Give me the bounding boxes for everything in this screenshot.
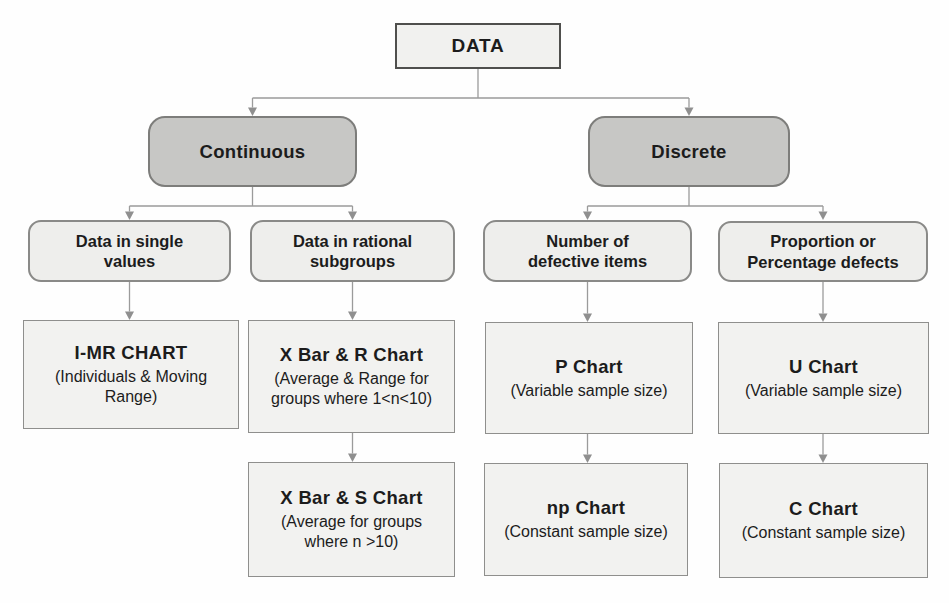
node-data: DATA [395,23,561,69]
edge-discrete-branch [583,187,828,220]
arrowhead-icon [125,212,134,221]
node-data-in-single-values: Data in single values [28,220,231,282]
edge-continuous-branch [125,187,357,220]
arrowhead-icon [819,314,828,323]
arrowhead-icon [685,108,694,117]
node-xbar-r-chart-subtitle: (Average & Range for groups where 1<n<10… [263,369,441,408]
node-data-in-single-values-label: Data in single values [54,231,205,271]
node-continuous-label: Continuous [200,141,306,163]
node-p-chart-subtitle: (Variable sample size) [510,381,667,401]
edge-xbar-r-xbar-s [348,433,357,462]
edge-defective-p [583,282,592,322]
flowchart-control-chart-selection: DATA Continuous Discrete Data in single … [0,0,949,603]
arrowhead-icon [125,312,134,321]
arrowhead-icon [248,108,257,117]
node-c-chart-title: C Chart [789,498,858,520]
arrowhead-icon [348,312,357,321]
arrowhead-icon [583,212,592,221]
edge-rational-xbar-r [348,282,357,320]
node-np-chart: np Chart (Constant sample size) [484,463,688,576]
node-proportion-or-percentage-defects-label: Proportion or Percentage defects [738,231,908,271]
edge-p-np [583,434,592,463]
node-xbar-r-chart: X Bar & R Chart (Average & Range for gro… [248,320,455,433]
node-discrete: Discrete [588,116,790,187]
edge-single-values-imr [125,282,134,320]
node-number-of-defective-items: Number of defective items [483,220,692,282]
node-c-chart: C Chart (Constant sample size) [719,463,928,578]
node-continuous: Continuous [148,116,357,187]
node-xbar-s-chart: X Bar & S Chart (Average for groups wher… [248,462,455,577]
node-number-of-defective-items-label: Number of defective items [515,231,660,271]
node-xbar-r-chart-title: X Bar & R Chart [280,344,423,366]
node-xbar-s-chart-title: X Bar & S Chart [280,487,422,509]
node-imr-chart-title: I-MR CHART [75,342,188,364]
node-p-chart-title: P Chart [555,356,623,378]
node-imr-chart-subtitle: (Individuals & Moving Range) [42,367,220,406]
edge-proportion-u [819,282,828,322]
node-data-label: DATA [451,35,504,57]
arrowhead-icon [583,455,592,464]
node-u-chart: U Chart (Variable sample size) [718,322,929,434]
node-np-chart-title: np Chart [547,497,625,519]
node-u-chart-title: U Chart [789,356,858,378]
arrowhead-icon [583,314,592,323]
arrowhead-icon [348,212,357,221]
edge-u-c [819,434,828,463]
arrowhead-icon [348,454,357,463]
node-p-chart: P Chart (Variable sample size) [485,322,693,434]
node-np-chart-subtitle: (Constant sample size) [504,522,668,542]
node-proportion-or-percentage-defects: Proportion or Percentage defects [718,221,928,282]
node-data-in-rational-subgroups: Data in rational subgroups [250,220,455,282]
node-xbar-s-chart-subtitle: (Average for groups where n >10) [267,512,437,551]
node-c-chart-subtitle: (Constant sample size) [742,523,906,543]
node-discrete-label: Discrete [651,141,726,163]
node-data-in-rational-subgroups-label: Data in rational subgroups [276,231,429,271]
node-u-chart-subtitle: (Variable sample size) [745,381,902,401]
arrowhead-icon [819,455,828,464]
edge-data-branch [248,69,694,116]
node-imr-chart: I-MR CHART (Individuals & Moving Range) [23,320,239,429]
arrowhead-icon [819,212,828,221]
